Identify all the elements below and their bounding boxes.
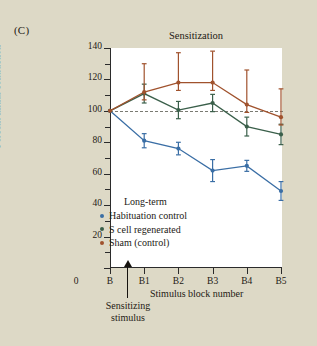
legend-item: Habituation control: [100, 209, 187, 223]
y-axis-minor-tick: [105, 127, 110, 128]
x-axis-tick-label: B5: [275, 276, 286, 286]
y-axis-tick-label: 20: [72, 230, 102, 240]
x-axis-tick: [213, 268, 214, 274]
legend-label: Habituation control: [109, 210, 187, 221]
x-axis-tick: [247, 268, 248, 274]
y-axis-tick-label: 40: [72, 198, 102, 208]
x-axis-tick-label: B1: [139, 276, 150, 286]
legend-item: Sham (control): [100, 236, 187, 250]
y-axis-title: Percent initial contraction: [0, 45, 2, 148]
y-axis-minor-tick: [105, 158, 110, 159]
reference-line-100: [110, 111, 283, 112]
x-axis-tick: [144, 268, 145, 274]
legend-label: Sham (control): [109, 237, 169, 248]
y-axis-tick-label: 60: [72, 167, 102, 177]
x-axis-title: Stimulus block number: [150, 288, 243, 299]
legend-item: S cell regenerated: [100, 223, 187, 237]
legend-marker-icon: [100, 241, 104, 245]
y-axis-tick: [104, 79, 110, 80]
sensitizing-caption-line: stimulus: [106, 312, 150, 324]
x-axis-tick-label: B4: [241, 276, 252, 286]
y-axis-minor-tick: [105, 252, 110, 253]
x-axis-tick: [281, 268, 282, 274]
figure-panel-c: (C) Sensitization 204060801001201400BB1B…: [0, 0, 317, 346]
y-axis-tick: [104, 142, 110, 143]
legend-label: S cell regenerated: [109, 224, 181, 235]
legend-marker-icon: [100, 214, 104, 218]
x-axis-tick: [178, 268, 179, 274]
legend-title: Long-term: [124, 196, 187, 207]
sensitizing-stimulus-caption: Sensitizingstimulus: [106, 300, 150, 324]
x-axis-tick-label: B2: [173, 276, 184, 286]
sensitizing-caption-line: Sensitizing: [106, 300, 150, 312]
y-axis-tick-label: 120: [72, 72, 102, 82]
y-axis-tick: [104, 48, 110, 49]
panel-label: (C): [14, 24, 29, 36]
y-axis-minor-tick: [105, 189, 110, 190]
legend-marker-icon: [100, 227, 104, 231]
y-axis-tick: [104, 174, 110, 175]
y-axis-tick-label: 100: [72, 104, 102, 114]
y-axis-tick-label: 140: [72, 41, 102, 51]
x-axis-tick: [110, 268, 111, 274]
x-axis-tick-label: B3: [207, 276, 218, 286]
y-axis-minor-tick: [105, 64, 110, 65]
y-axis-minor-tick: [105, 95, 110, 96]
x-axis-tick-label: B: [107, 276, 113, 286]
legend: Long-term Habituation controlS cell rege…: [100, 196, 187, 250]
legend-rows: Habituation controlS cell regeneratedSha…: [100, 209, 187, 250]
chart-title: Sensitization: [110, 30, 282, 41]
y-axis-tick-label: 80: [72, 135, 102, 145]
sensitizing-stimulus-arrow-icon: [127, 266, 128, 298]
x-axis-tick-label: 0: [74, 276, 79, 286]
